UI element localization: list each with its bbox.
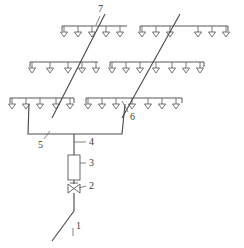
sprinkler-group	[29, 62, 100, 73]
distribution-manifold	[28, 104, 125, 134]
leader-6	[122, 101, 128, 112]
callout-label-2: 2	[89, 181, 94, 191]
callout-label-5: 5	[38, 140, 43, 150]
callout-leaders	[44, 16, 128, 236]
callout-label-4: 4	[89, 137, 94, 147]
diagonal-lateral-line-7	[52, 14, 105, 118]
leader-5	[44, 131, 50, 139]
lateral-row-2-left	[29, 62, 100, 73]
schematic-canvas	[0, 0, 244, 248]
filter-body-3	[68, 155, 80, 180]
sprinkler-group	[9, 98, 74, 109]
callout-label-3: 3	[89, 158, 94, 168]
lateral-row-3-right	[85, 98, 183, 109]
control-valve-2	[68, 183, 80, 193]
lateral-row-1-right	[139, 26, 230, 37]
callout-label-6: 6	[130, 112, 135, 122]
callout-label-7: 7	[98, 4, 103, 14]
inlet-pipe-1	[52, 211, 74, 241]
lateral-row-2-right	[109, 62, 205, 73]
sprinkler-group	[109, 62, 204, 73]
lateral-row-3-left	[9, 98, 75, 109]
leader-7	[96, 16, 100, 25]
sprinkler-group	[139, 26, 230, 37]
irrigation-diagram: 1 2 3 4 5 6 7	[0, 0, 244, 248]
diagonal-lateral-line-6	[122, 14, 180, 118]
callout-label-1: 1	[76, 221, 81, 231]
sprinkler-group	[61, 26, 124, 37]
